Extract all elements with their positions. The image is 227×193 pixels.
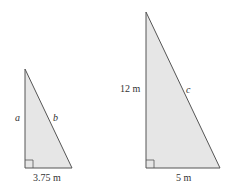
large-triangle-hypotenuse-c-label: c bbox=[186, 85, 190, 95]
small-triangle-side-a-label: a bbox=[15, 113, 20, 123]
small-triangle-hypotenuse-b-label: b bbox=[53, 113, 58, 123]
small-right-triangle bbox=[25, 69, 72, 168]
large-right-triangle bbox=[146, 12, 220, 168]
large-triangle-vertical-side-label: 12 m bbox=[120, 84, 140, 94]
small-triangle-base-label: 3.75 m bbox=[33, 173, 61, 183]
large-triangle-base-label: 5 m bbox=[176, 173, 191, 183]
triangles-diagram bbox=[0, 0, 227, 193]
